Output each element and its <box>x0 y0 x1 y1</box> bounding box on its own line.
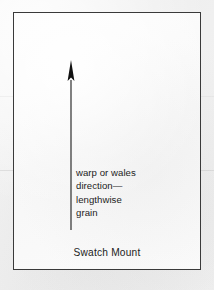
swatch-mount-caption: Swatch Mount <box>13 246 201 259</box>
grain-direction-annotation: warp or wales direction— lengthwise grai… <box>76 166 180 220</box>
swatch-mount-figure: warp or wales direction— lengthwise grai… <box>0 0 214 290</box>
annotation-line-2: direction— <box>76 179 180 192</box>
annotation-line-3: lengthwise <box>76 193 180 206</box>
annotation-line-1: warp or wales <box>76 166 180 179</box>
annotation-line-4: grain <box>76 206 180 219</box>
swatch-mount-frame <box>13 12 201 270</box>
